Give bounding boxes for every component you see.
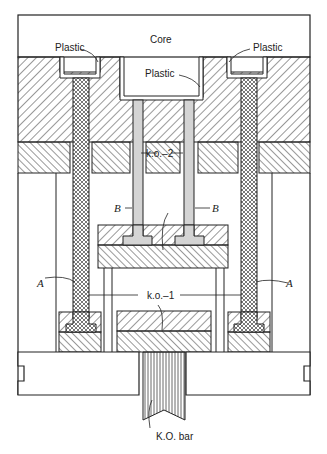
b-label-right: B bbox=[212, 202, 219, 214]
mold-diagram: Core Plastic Plastic Plastic k.o.–2 B B … bbox=[0, 0, 327, 454]
ejector-pin-a-left bbox=[73, 78, 89, 318]
ejector-pin-b-right bbox=[184, 100, 194, 240]
a-label-right: A bbox=[285, 277, 293, 289]
ko1-ejector-plates-left bbox=[59, 312, 101, 352]
plastic-label-center: Plastic bbox=[145, 68, 174, 79]
ejector-pin-b-left bbox=[133, 100, 143, 240]
a-label-left: A bbox=[36, 277, 44, 289]
ko-bar-label: K.O. bar bbox=[156, 431, 194, 442]
b-label-left: B bbox=[114, 202, 121, 214]
ko1-ejector-plates-right bbox=[228, 312, 270, 352]
ejector-pin-a-right bbox=[241, 78, 257, 318]
ko1-label: k.o.–1 bbox=[147, 290, 175, 301]
plastic-label-right: Plastic bbox=[253, 42, 282, 53]
ko2-label: k.o.–2 bbox=[146, 148, 174, 159]
ko1-center-plates bbox=[117, 311, 211, 352]
core-label: Core bbox=[150, 34, 172, 45]
plastic-label-left: Plastic bbox=[55, 42, 84, 53]
